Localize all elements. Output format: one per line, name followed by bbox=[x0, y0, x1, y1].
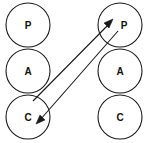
node-circle-left-c[interactable] bbox=[6, 95, 50, 139]
node-circle-left-p[interactable] bbox=[6, 3, 50, 47]
node-left-c[interactable]: C bbox=[6, 95, 50, 139]
node-right-p[interactable]: P bbox=[98, 3, 142, 47]
node-right-c[interactable]: C bbox=[98, 95, 142, 139]
node-right-a[interactable]: A bbox=[98, 49, 142, 93]
node-circle-right-c[interactable] bbox=[98, 95, 142, 139]
node-left-p[interactable]: P bbox=[6, 3, 50, 47]
node-left-a[interactable]: A bbox=[6, 49, 50, 93]
node-circle-left-a[interactable] bbox=[6, 49, 50, 93]
diagram-canvas: P A C P A C bbox=[0, 0, 146, 143]
node-circle-right-p[interactable] bbox=[98, 3, 142, 47]
node-circle-right-a[interactable] bbox=[98, 49, 142, 93]
diagram-svg: P A C P A C bbox=[0, 0, 146, 143]
